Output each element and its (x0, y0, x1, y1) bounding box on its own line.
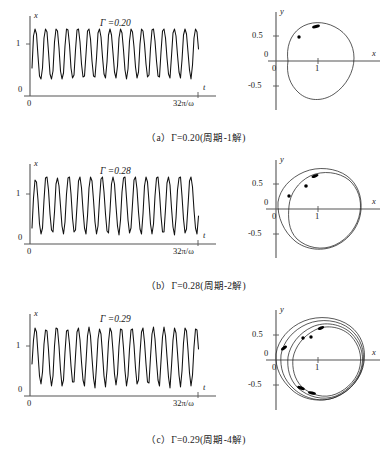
caption-b: （b）Γ=0.28(周期-2解) (0, 278, 392, 292)
caption-c: （c）Γ=0.29(周期-4解) (0, 432, 392, 446)
phase-ytick-m05-a: -0.5 (248, 80, 261, 90)
timeseries-xtick-end-c: 32π/ω (173, 398, 194, 408)
phase-ytick-p05-a: 0.5 (252, 30, 263, 40)
phase-ytick-p05-b: 0.5 (252, 178, 263, 188)
timeseries-ytick-1-b: 1 (16, 188, 20, 198)
timeseries-xtick-0-a: 0 (27, 98, 31, 108)
timeseries-plot-c: x 1 0 0 32π/ω t (8, 306, 223, 414)
phase-svg-c (248, 304, 388, 416)
phase-xtick-0-a: 0 (272, 63, 276, 73)
phase-ylabel-c: y (280, 304, 284, 314)
poincare-point-b-1 (287, 194, 290, 197)
phase-orbit-b-inner (289, 173, 361, 249)
timeseries-xtick-0-b: 0 (27, 246, 31, 256)
figure-period-doubling: Γ =0.20 x 1 0 0 32π/ω t (0, 0, 392, 455)
phase-ytick-0-c: 0 (264, 348, 268, 358)
panel-row-b: Γ =0.28 x 1 0 0 32π/ω t (0, 152, 392, 300)
poincare-point-c-4 (317, 325, 324, 330)
timeseries-ylabel-c: x (34, 308, 38, 318)
timeseries-plot-b: x 1 0 0 32π/ω t (8, 156, 223, 264)
poincare-point-a-1 (297, 35, 300, 38)
phase-xtick-1-a: 1 (315, 63, 319, 73)
timeseries-plot-a: x 1 0 0 32π/ω t (8, 8, 223, 116)
phase-xtick-0-c: 0 (272, 362, 276, 372)
panel-row-a: Γ =0.20 x 1 0 0 32π/ω t (0, 0, 392, 152)
phase-portrait-b: y x 0.5 0 -0.5 0 1 (248, 154, 388, 266)
phase-ytick-0-b: 0 (264, 197, 268, 207)
phase-svg-b (248, 154, 388, 266)
timeseries-xtick-end-b: 32π/ω (173, 246, 194, 256)
poincare-point-c-3 (309, 335, 312, 338)
timeseries-ylabel-b: x (34, 158, 38, 168)
panel-row-c: Γ =0.29 x 1 0 0 32π/ω t (0, 300, 392, 455)
timeseries-ytick-0-b: 0 (18, 232, 22, 242)
poincare-point-b-2 (304, 184, 308, 188)
timeseries-ytick-1-c: 1 (16, 340, 20, 350)
poincare-point-a-2 (312, 24, 321, 29)
phase-xtick-0-b: 0 (272, 211, 276, 221)
timeseries-xtick-end-a: 32π/ω (173, 98, 194, 108)
timeseries-xlabel-a: t (203, 82, 205, 92)
phase-svg-a (248, 6, 388, 118)
timeseries-curve-a (32, 29, 199, 79)
timeseries-ytick-1-a: 1 (16, 38, 20, 48)
poincare-point-c-2 (301, 336, 304, 339)
phase-portrait-a: y x 0.5 0 -0.5 0 1 (248, 6, 388, 118)
phase-ytick-m05-b: -0.5 (248, 228, 261, 238)
timeseries-xtick-0-c: 0 (27, 398, 31, 408)
timeseries-ytick-0-a: 0 (18, 84, 22, 94)
phase-xtick-1-c: 1 (315, 362, 319, 372)
caption-a: （a）Γ=0.20(周期-1解) (0, 130, 392, 144)
phase-xlabel-c: x (372, 347, 376, 357)
phase-xlabel-a: x (372, 48, 376, 58)
timeseries-xlabel-c: t (203, 382, 205, 392)
timeseries-ytick-0-c: 0 (18, 384, 22, 394)
phase-portrait-c: y x 0.5 0 -0.5 0 1 (248, 304, 388, 416)
phase-xlabel-b: x (372, 196, 376, 206)
phase-ylabel-b: y (280, 154, 284, 164)
timeseries-curve-c (32, 327, 199, 388)
phase-ytick-m05-c: -0.5 (248, 379, 261, 389)
phase-ytick-p05-c: 0.5 (252, 329, 263, 339)
phase-ytick-0-a: 0 (264, 49, 268, 59)
phase-ylabel-a: y (280, 6, 284, 16)
timeseries-xlabel-b: t (203, 230, 205, 240)
phase-xtick-1-b: 1 (315, 211, 319, 221)
timeseries-ylabel-a: x (34, 10, 38, 20)
timeseries-curve-b (32, 177, 199, 235)
